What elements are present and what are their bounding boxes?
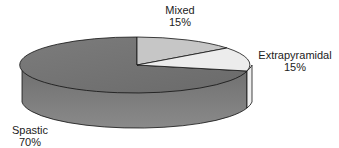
extrapyramidal-side — [247, 65, 252, 108]
label-mixed-name: Mixed — [160, 4, 200, 16]
label-extrapyramidal: Extrapyramidal 15% — [253, 49, 337, 73]
label-spastic: Spastic 70% — [8, 124, 52, 148]
label-extrapyramidal-value: 15% — [253, 61, 337, 73]
label-mixed-value: 15% — [160, 16, 200, 28]
label-extrapyramidal-name: Extrapyramidal — [253, 49, 337, 61]
label-mixed: Mixed 15% — [160, 4, 200, 28]
label-spastic-value: 70% — [8, 136, 52, 148]
label-spastic-name: Spastic — [8, 124, 52, 136]
